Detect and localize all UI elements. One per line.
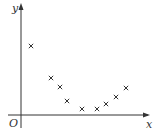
- origin-label: O: [9, 117, 18, 130]
- x-axis-label: x: [146, 118, 153, 131]
- data-points: [29, 44, 128, 111]
- x-axis-arrow-icon: [143, 113, 150, 118]
- scatter-plot: y x O: [0, 0, 157, 133]
- y-axis-label: y: [11, 2, 19, 15]
- y-axis-arrow-icon: [19, 3, 24, 10]
